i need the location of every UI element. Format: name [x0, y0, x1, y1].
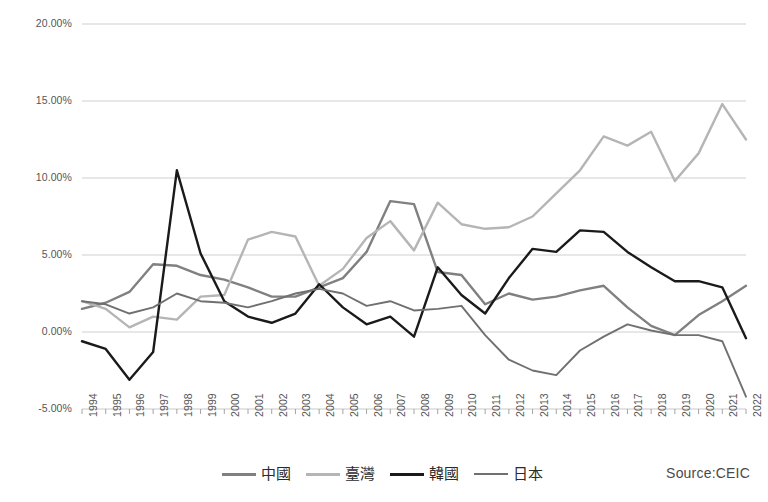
x-axis-tick-label: 2020	[704, 393, 716, 417]
series-line-2	[82, 104, 746, 327]
legend-label: 臺灣	[345, 467, 375, 482]
legend-label: 日本	[513, 467, 543, 482]
source-note: Source:CEIC	[666, 465, 750, 481]
chart-container: 20.00%15.00%10.00%5.00%0.00%-5.00% 19941…	[0, 0, 768, 502]
x-axis-tick-label: 2005	[348, 393, 360, 417]
legend-swatch-line	[222, 473, 256, 476]
x-axis-tick-label: 2022	[751, 393, 763, 417]
y-axis-tick-label: 0.00%	[14, 325, 72, 337]
x-axis-tick-label: 1999	[206, 393, 218, 417]
x-axis-tick-label: 2016	[609, 393, 621, 417]
x-axis-tick-label: 2000	[229, 393, 241, 417]
x-axis-tick-label: 1997	[158, 393, 170, 417]
legend-swatch-line	[474, 473, 508, 475]
x-axis-tick-label: 2002	[277, 393, 289, 417]
x-axis-tick-label: 2013	[538, 393, 550, 417]
x-axis-tick-label: 2008	[419, 393, 431, 417]
legend-swatch-line	[306, 473, 340, 476]
legend-item-3[interactable]: 韓國	[390, 467, 459, 482]
chart-legend: 中國臺灣韓國日本	[222, 462, 543, 486]
gridlines	[82, 24, 746, 409]
x-axis-tick-label: 2015	[585, 393, 597, 417]
x-axis-tick-label: 2014	[561, 393, 573, 417]
x-axis-tick-label: 2012	[514, 393, 526, 417]
series-lines	[82, 104, 746, 397]
legend-item-4[interactable]: 日本	[474, 467, 543, 482]
x-axis-tick-label: 1998	[182, 393, 194, 417]
y-axis-tick-label: 20.00%	[14, 17, 72, 29]
x-axis-tick-label: 2004	[324, 393, 336, 417]
x-axis-tick-label: 2018	[656, 393, 668, 417]
x-axis-tick-label: 2003	[300, 393, 312, 417]
y-axis-tick-label: 15.00%	[14, 94, 72, 106]
y-axis-tick-label: 5.00%	[14, 248, 72, 260]
series-line-4	[82, 289, 746, 397]
x-axis-tick-label: 2019	[680, 393, 692, 417]
legend-label: 韓國	[429, 467, 459, 482]
series-line-3	[82, 170, 746, 379]
legend-item-1[interactable]: 中國	[222, 467, 291, 482]
line-chart-plot	[0, 0, 768, 502]
y-axis-tick-label: 10.00%	[14, 171, 72, 183]
x-axis-tick-label: 2001	[253, 393, 265, 417]
y-axis-tick-label: -5.00%	[14, 402, 72, 414]
x-axis-tick-label: 2017	[632, 393, 644, 417]
x-axis-tick-label: 2007	[395, 393, 407, 417]
x-axis-tick-label: 2011	[490, 394, 502, 417]
x-axis-tick-label: 1996	[134, 393, 146, 417]
x-axis-tick-label: 2006	[372, 393, 384, 417]
x-axis-tick-label: 1995	[111, 393, 123, 417]
legend-label: 中國	[261, 467, 291, 482]
x-axis-tick-label: 2021	[727, 393, 739, 417]
x-axis-tick-label: 2009	[443, 393, 455, 417]
legend-swatch-line	[390, 473, 424, 476]
legend-item-2[interactable]: 臺灣	[306, 467, 375, 482]
x-axis-tick-label: 1994	[87, 393, 99, 417]
x-axis-tick-label: 2010	[466, 393, 478, 417]
